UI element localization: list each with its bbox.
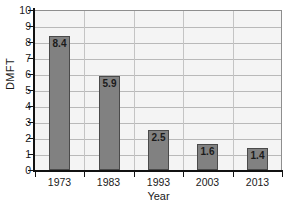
x-tick-label: 1973 — [35, 176, 84, 188]
y-tick-mark — [28, 26, 34, 27]
bar-2003: 1.6 — [197, 144, 218, 170]
gridline-vertical — [84, 11, 85, 170]
y-tick-mark — [28, 42, 34, 43]
gridline-vertical — [134, 11, 135, 170]
x-tick-mark — [282, 172, 283, 177]
bar-value-label: 8.4 — [50, 39, 69, 49]
bar-value-label: 5.9 — [100, 79, 119, 89]
x-tick-label: 1983 — [84, 176, 133, 188]
bar-value-label: 1.6 — [198, 147, 217, 157]
x-tick-mark — [35, 172, 36, 177]
x-tick-label: 2013 — [233, 176, 282, 188]
bar-1973: 8.4 — [49, 36, 70, 170]
gridline-horizontal — [35, 75, 281, 76]
x-axis-title: Year — [35, 190, 282, 202]
gridline-horizontal — [35, 43, 281, 44]
gridline-horizontal — [35, 91, 281, 92]
x-tick-mark — [134, 172, 135, 177]
y-tick-mark — [28, 90, 34, 91]
gridline-horizontal — [35, 27, 281, 28]
gridline-vertical — [233, 11, 234, 170]
gridline-vertical — [183, 11, 184, 170]
x-tick-mark — [84, 172, 85, 177]
bar-1993: 2.5 — [148, 130, 169, 170]
bar-value-label: 1.4 — [248, 151, 267, 161]
y-tick-mark — [28, 58, 34, 59]
x-tick-label: 2003 — [183, 176, 232, 188]
bar-value-label: 2.5 — [149, 133, 168, 143]
y-tick-mark — [28, 10, 34, 11]
y-tick-mark — [28, 154, 34, 155]
x-tick-mark — [233, 172, 234, 177]
bar-chart: DMFT 8.45.92.51.61.4 012345678910 197319… — [0, 0, 286, 206]
y-tick-mark — [28, 106, 34, 107]
y-tick-mark — [28, 138, 34, 139]
x-axis-line — [33, 170, 283, 172]
x-tick-label: 1993 — [134, 176, 183, 188]
y-tick-mark — [28, 122, 34, 123]
gridline-horizontal — [35, 107, 281, 108]
bar-1983: 5.9 — [99, 76, 120, 170]
gridline-horizontal — [35, 59, 281, 60]
x-tick-mark — [183, 172, 184, 177]
y-tick-mark — [28, 170, 34, 171]
gridline-horizontal — [35, 123, 281, 124]
y-tick-mark — [28, 74, 34, 75]
bar-2013: 1.4 — [247, 148, 268, 170]
plot-area: 8.45.92.51.61.4 — [35, 10, 282, 170]
